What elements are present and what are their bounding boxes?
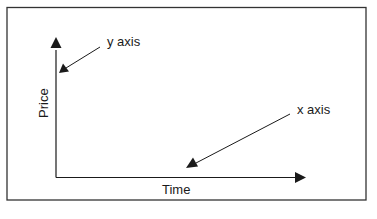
x-axis-arrowhead-icon xyxy=(295,172,306,183)
diagram-canvas: y axis x axis Time Price xyxy=(0,0,377,219)
callout-arrowhead-icon xyxy=(59,64,69,74)
y-axis-title: Price xyxy=(36,88,51,118)
y-axis-callout-arrow xyxy=(59,47,100,73)
x-axis-callout-label: x axis xyxy=(297,102,331,117)
x-axis-title: Time xyxy=(162,182,190,197)
y-axis-arrowhead-icon xyxy=(51,37,62,48)
x-axis-callout-arrow xyxy=(186,114,290,168)
y-axis-callout-label: y axis xyxy=(107,34,141,49)
y-axis xyxy=(51,37,62,178)
axes-diagram: y axis x axis Time Price xyxy=(0,0,377,219)
